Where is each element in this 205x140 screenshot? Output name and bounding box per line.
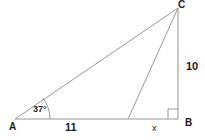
geometry-figure: A B C 11 x 10 37° bbox=[0, 0, 205, 140]
length-label-vertical-side: 10 bbox=[186, 61, 198, 72]
length-label-base-left: 11 bbox=[65, 122, 77, 133]
figure-canvas bbox=[0, 0, 205, 140]
vertex-label-b: B bbox=[185, 118, 192, 128]
segment-AC bbox=[15, 8, 178, 119]
length-label-base-right: x bbox=[152, 124, 157, 133]
vertex-label-c: C bbox=[178, 0, 185, 10]
vertex-label-a: A bbox=[9, 122, 16, 132]
angle-measure-label: 37° bbox=[33, 105, 47, 114]
right-angle-square-icon bbox=[168, 109, 178, 119]
